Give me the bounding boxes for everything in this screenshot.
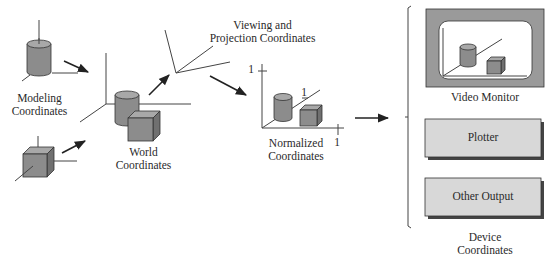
normalized-axis-tick-y: 1 bbox=[246, 63, 256, 76]
device-bracket bbox=[408, 6, 411, 228]
arrow-world-to-viewing bbox=[149, 75, 169, 95]
video-monitor-icon bbox=[426, 9, 544, 87]
normalized-scene-icon bbox=[258, 64, 344, 135]
device-coordinates-label: Device Coordinates bbox=[445, 231, 525, 257]
video-monitor-label: Video Monitor bbox=[426, 91, 544, 103]
arrow-modeling-to-world bbox=[64, 61, 88, 72]
normalized-coordinates-label: Normalized Coordinates bbox=[256, 137, 336, 163]
viewing-projection-coordinates-label: Viewing and Projection Coordinates bbox=[190, 19, 335, 45]
other-output-label: Other Output bbox=[425, 190, 541, 202]
modeling-cylinder-icon bbox=[22, 20, 78, 81]
normalized-axis-tick-z: 1 bbox=[299, 86, 309, 99]
modeling-coordinates-label: Modeling Coordinates bbox=[2, 92, 77, 118]
world-coordinates-label: World Coordinates bbox=[106, 146, 181, 172]
plotter-label: Plotter bbox=[425, 131, 541, 143]
arrow-viewing-to-normalized bbox=[210, 76, 246, 95]
modeling-cube-icon bbox=[15, 136, 77, 181]
arrow-modeling-cube-to-world bbox=[62, 141, 85, 153]
